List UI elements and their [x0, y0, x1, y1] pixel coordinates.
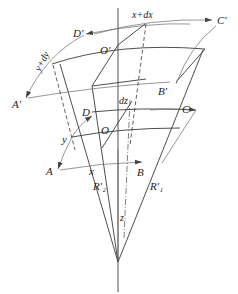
label-dz: dz	[119, 95, 128, 106]
curvilinear-element-diagram: D′ x+dx C′ O′ y+dy A′ B′ D dz C O y A x …	[0, 0, 238, 294]
label-b: B	[137, 166, 144, 178]
label-c: C	[182, 103, 190, 115]
label-x-plus-dx: x+dx	[131, 9, 153, 20]
label-a-prime: A′	[11, 98, 22, 110]
arc-to-d-prime	[86, 24, 190, 34]
label-d: D	[81, 106, 90, 118]
lower-face-edge-b-c	[162, 110, 196, 163]
lower-face-front-edge	[60, 162, 142, 170]
label-y: y	[61, 133, 67, 145]
lower-face-back-edge	[72, 128, 180, 137]
label-x: x	[88, 165, 94, 177]
radius-line-r2-left	[60, 64, 118, 262]
label-b-prime: B′	[158, 85, 168, 97]
label-r2-prime: R′₂	[92, 180, 106, 192]
label-o: O	[101, 124, 109, 136]
dashdot-line-o	[124, 100, 130, 238]
radius-line-r1-right	[118, 50, 203, 262]
label-r1-prime: R′₁	[149, 180, 163, 192]
radius-line-inner-left	[92, 86, 118, 262]
arc-to-c-prime	[94, 20, 212, 34]
label-c-prime: C′	[217, 14, 227, 26]
label-y-plus-dy: y+dy	[32, 49, 52, 74]
label-z: z	[119, 212, 124, 223]
label-o-prime: O′	[100, 44, 111, 56]
label-d-prime: D′	[72, 27, 84, 39]
upper-face-front-edge	[28, 82, 170, 98]
label-a: A	[45, 165, 53, 177]
upper-face-back-edge	[52, 47, 205, 64]
